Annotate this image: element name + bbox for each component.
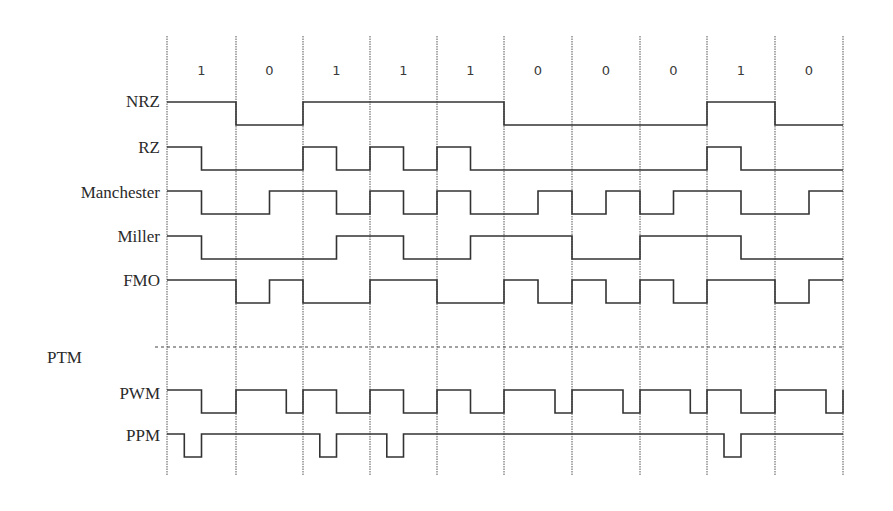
signal-label-nrz: NRZ [0,92,160,112]
signal-label-manchester: Manchester [0,183,160,203]
bit-value-label: 1 [317,63,357,79]
bit-value-label: 1 [721,63,761,79]
waveforms [167,102,843,457]
bit-value-label: 0 [789,63,829,79]
waveform-ppm [167,434,843,457]
ptm-section-label: PTM [47,348,207,368]
waveform-manchester [167,191,843,214]
waveform-pwm [167,390,843,413]
bit-value-label: 1 [182,63,222,79]
bit-value-label: 0 [586,63,626,79]
signal-label-miller: Miller [0,227,160,247]
bit-value-label: 0 [250,63,290,79]
bit-value-label: 1 [384,63,424,79]
signal-label-rz: RZ [0,138,160,158]
waveform-rz [167,147,843,170]
bit-value-label: 1 [451,63,491,79]
bit-value-label: 0 [518,63,558,79]
waveform-miller [167,236,843,259]
bit-value-label: 0 [654,63,694,79]
signal-label-fm0: FMO [0,271,160,291]
signal-label-ppm: PPM [0,426,160,446]
waveform-fm0 [167,280,843,303]
waveform-nrz [167,102,843,125]
signal-label-pwm: PWM [0,384,160,404]
